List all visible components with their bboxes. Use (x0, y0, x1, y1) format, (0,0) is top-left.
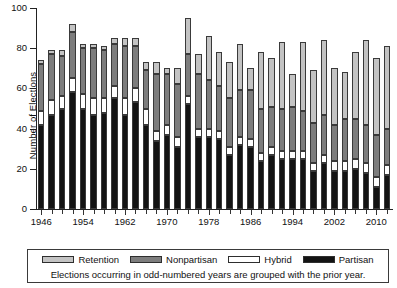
bar-segment-nonpartisan (38, 64, 44, 110)
bar-1968 (153, 62, 159, 209)
legend-swatch-hybrid (228, 256, 260, 263)
bar-segment-retention (101, 46, 107, 50)
bar-segment-partisan (122, 115, 128, 209)
bar-segment-nonpartisan (216, 86, 222, 130)
x-axis-tick (334, 210, 335, 215)
legend-label-nonpartisan: Nonpartisan (166, 254, 217, 265)
bar-1974 (185, 18, 191, 209)
bar-segment-hybrid (331, 161, 337, 171)
bar-segment-nonpartisan (373, 135, 379, 177)
bar-segment-retention (195, 54, 201, 74)
bar-1980 (216, 52, 222, 209)
bar-segment-nonpartisan (59, 56, 65, 96)
bar-segment-partisan (268, 155, 274, 209)
chart-legend: RetentionNonpartisanHybridPartisan Elect… (27, 249, 389, 283)
y-axis-tick-label: 80 (16, 42, 27, 53)
bar-segment-hybrid (111, 86, 117, 98)
x-axis-tick (62, 210, 63, 214)
x-axis-tick-label: 2010 (366, 216, 387, 227)
x-axis-tick-label: 1962 (114, 216, 135, 227)
bar-segment-retention (174, 68, 180, 84)
bar-segment-nonpartisan (101, 50, 107, 98)
legend-item-nonpartisan[interactable]: Nonpartisan (130, 254, 217, 265)
bar-segment-retention (143, 62, 149, 70)
bar-segment-retention (300, 42, 306, 110)
y-axis-tick-label: 40 (16, 123, 27, 134)
bar-segment-partisan (226, 155, 232, 209)
bar-segment-retention (38, 60, 44, 64)
bar-1954 (80, 44, 86, 209)
bar-1990 (268, 58, 274, 209)
bar-segment-partisan (69, 92, 75, 209)
bar-segment-hybrid (237, 137, 243, 145)
bar-segment-retention (185, 18, 191, 54)
x-axis-tick (272, 210, 273, 214)
y-axis-tick-label: 100 (11, 2, 27, 13)
bar-1976 (195, 54, 201, 209)
x-axis-tick-label: 1986 (240, 216, 261, 227)
bar-segment-partisan (342, 171, 348, 209)
bar-1972 (174, 68, 180, 209)
bar-segment-partisan (247, 147, 253, 209)
bar-segment-retention (331, 68, 337, 124)
bar-segment-hybrid (310, 163, 316, 171)
x-axis-tick (177, 210, 178, 214)
bar-segment-nonpartisan (279, 109, 285, 151)
bar-2010 (373, 58, 379, 209)
bar-segment-hybrid (185, 96, 191, 104)
bar-segment-nonpartisan (69, 32, 75, 78)
x-axis-tick (115, 210, 116, 214)
bar-segment-partisan (289, 159, 295, 209)
bar-segment-nonpartisan (132, 46, 138, 88)
x-axis-tick-label: 2002 (324, 216, 345, 227)
bar-segment-hybrid (342, 161, 348, 171)
bar-segment-hybrid (59, 96, 65, 108)
x-axis-tick (135, 210, 136, 214)
bar-1948 (48, 50, 54, 209)
bar-segment-retention (80, 44, 86, 48)
bar-segment-nonpartisan (342, 119, 348, 161)
bar-segment-partisan (300, 159, 306, 209)
x-axis-tick (156, 210, 157, 214)
bar-segment-partisan (174, 147, 180, 209)
bar-1970 (164, 68, 170, 209)
legend-label-retention: Retention (78, 254, 119, 265)
bar-segment-nonpartisan (80, 48, 86, 94)
bar-segment-partisan (185, 104, 191, 209)
bar-segment-retention (48, 50, 54, 54)
x-axis-tick (219, 210, 220, 214)
bar-segment-partisan (384, 175, 390, 209)
x-axis-tick (188, 210, 189, 214)
bar-1966 (143, 62, 149, 209)
bar-1996 (300, 42, 306, 209)
bar-2000 (321, 40, 327, 209)
bar-segment-hybrid (69, 78, 75, 92)
bar-1962 (122, 38, 128, 209)
bar-segment-hybrid (226, 147, 232, 155)
bar-segment-nonpartisan (206, 80, 212, 128)
bar-segment-hybrid (164, 125, 170, 135)
bar-segment-nonpartisan (237, 90, 243, 136)
legend-item-retention[interactable]: Retention (42, 254, 119, 265)
y-axis-tick-label: 20 (16, 163, 27, 174)
bar-segment-retention (279, 42, 285, 108)
bar-segment-partisan (101, 113, 107, 209)
legend-item-hybrid[interactable]: Hybrid (228, 254, 291, 265)
y-axis-tick-label: 60 (16, 82, 27, 93)
x-axis-tick (293, 210, 294, 215)
x-axis-tick (376, 210, 377, 215)
legend-item-partisan[interactable]: Partisan (303, 254, 374, 265)
bar-segment-hybrid (289, 151, 295, 159)
bar-1946 (38, 60, 44, 209)
bar-segment-partisan (132, 102, 138, 209)
bar-segment-nonpartisan (321, 115, 327, 155)
legend-label-partisan: Partisan (339, 254, 374, 265)
bar-segment-hybrid (247, 139, 253, 147)
plot-area (36, 8, 392, 209)
bar-segment-retention (268, 58, 274, 106)
bar-1950 (59, 50, 65, 209)
bar-segment-retention (352, 52, 358, 118)
bar-segment-hybrid (90, 98, 96, 114)
bar-segment-retention (226, 62, 232, 98)
bar-segment-hybrid (321, 155, 327, 163)
